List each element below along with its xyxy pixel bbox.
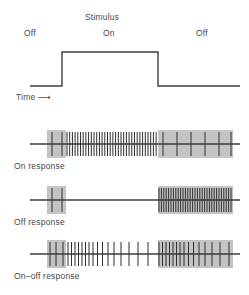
stimulus-response-figure: Off Stimulus On Off Time ⟶ On response O… (0, 0, 249, 295)
spike-panel-3 (30, 240, 240, 268)
stimulus-step-trace (30, 52, 240, 86)
figure-canvas (0, 0, 249, 295)
spike-panel-2 (30, 186, 240, 214)
spike-panel-1 (30, 130, 240, 158)
